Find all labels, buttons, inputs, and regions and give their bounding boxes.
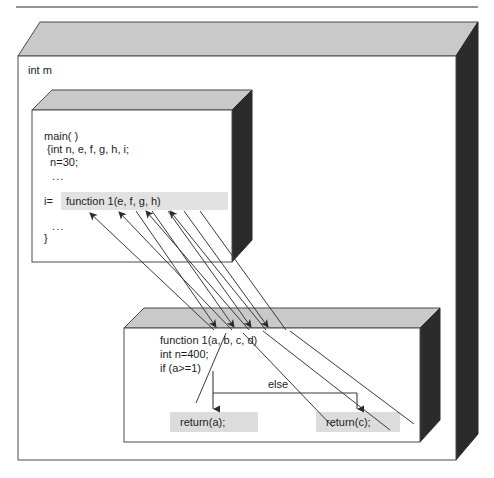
return-else-statement[interactable]: return(c); — [326, 416, 371, 430]
caller-line-3: ... — [44, 170, 64, 184]
caller-line-6: } — [44, 232, 48, 246]
callee-line-2: if (a>=1) — [160, 362, 201, 376]
caller-line-2: n=30; — [44, 156, 78, 170]
return-then-statement[interactable]: return(a); — [180, 416, 225, 430]
callee-line-1: int n=400; — [160, 348, 209, 362]
diagram-vector-layer — [0, 0, 494, 478]
figure-canvas: int m main( ) {int n, e, f, g, h, i; n=3… — [0, 0, 494, 478]
caller-line-0: main( ) — [44, 130, 78, 144]
else-label: else — [268, 378, 288, 392]
callee-signature: function 1(a, b, c, d) — [160, 334, 257, 348]
caller-line-1: {int n, e, f, g, h, i; — [44, 143, 129, 157]
caller-call-expression[interactable]: function 1(e, f, g, h) — [66, 195, 161, 209]
caller-assign-label: i= — [44, 195, 53, 209]
outer-box-label: int m — [28, 64, 52, 77]
